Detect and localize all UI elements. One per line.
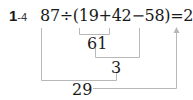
step-result-3: 3 bbox=[111, 58, 121, 77]
step-result-61: 61 bbox=[87, 34, 107, 53]
arrow-head-icon bbox=[174, 27, 180, 33]
step-result-29: 29 bbox=[72, 80, 92, 99]
